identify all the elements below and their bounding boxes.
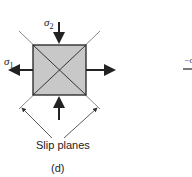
sigma2-label: σ2	[44, 16, 53, 31]
panel-label: (d)	[51, 162, 64, 174]
slip-pointer-right	[64, 108, 97, 138]
slip-pointer-left	[22, 108, 52, 138]
sigma1-label: σ1	[4, 55, 13, 70]
clipped-fragment-label: −σ	[184, 56, 192, 65]
slip-planes-label: Slip planes	[36, 139, 90, 151]
stress-diagram	[0, 0, 192, 177]
